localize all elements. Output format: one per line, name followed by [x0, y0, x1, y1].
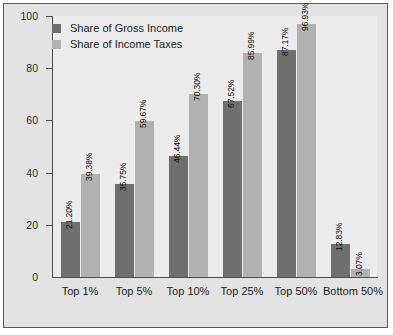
- bars-layer: 21.20%39.38%35.75%59.67%46.44%70.30%67.5…: [53, 16, 377, 277]
- y-axis-label: 60: [26, 115, 38, 126]
- y-axis-tick: [46, 16, 53, 17]
- y-axis-label: 0: [32, 272, 38, 283]
- bar[interactable]: [277, 50, 296, 278]
- bar-value-label: 67.52%: [226, 80, 236, 108]
- y-axis-tick: [46, 173, 53, 174]
- y-axis-label: 100: [20, 11, 38, 22]
- x-axis-category-label: Top 5%: [107, 285, 161, 297]
- y-axis-tick: [46, 120, 53, 121]
- bar-value-label: 59.67%: [138, 100, 148, 128]
- bar-value-label: 70.30%: [192, 72, 202, 100]
- x-axis-category-label: Top 50%: [269, 285, 323, 297]
- y-axis-tick: [46, 225, 53, 226]
- y-axis-label: 40: [26, 168, 38, 179]
- x-axis-line: [52, 277, 378, 278]
- bar[interactable]: [135, 121, 154, 277]
- bar-value-label: 35.75%: [118, 162, 128, 190]
- legend-swatch-icon: [52, 40, 61, 49]
- bar[interactable]: [81, 174, 100, 277]
- bar-value-label: 21.20%: [64, 200, 74, 228]
- chart-legend: Share of Gross IncomeShare of Income Tax…: [52, 22, 183, 54]
- x-axis-category-label: Bottom 50%: [323, 285, 377, 297]
- bar-value-label: 12.83%: [334, 222, 344, 250]
- bar[interactable]: [297, 24, 316, 277]
- bar-value-label: 46.44%: [172, 135, 182, 163]
- bar[interactable]: [115, 184, 134, 277]
- y-axis-label: 20: [26, 220, 38, 231]
- legend-item-label: Share of Income Taxes: [70, 39, 182, 50]
- x-axis-category-label: Top 25%: [215, 285, 269, 297]
- legend-item[interactable]: Share of Gross Income: [52, 22, 183, 35]
- chart-figure: 020406080100 21.20%39.38%35.75%59.67%46.…: [3, 3, 388, 328]
- bar-value-label: 87.17%: [280, 28, 290, 56]
- x-axis-category-label: Top 10%: [161, 285, 215, 297]
- legend-swatch-icon: [52, 24, 61, 33]
- legend-item-label: Share of Gross Income: [70, 23, 183, 34]
- x-axis-category-label: Top 1%: [53, 285, 107, 297]
- legend-item[interactable]: Share of Income Taxes: [52, 38, 183, 51]
- y-axis-tick: [46, 68, 53, 69]
- bar[interactable]: [243, 53, 262, 277]
- bar[interactable]: [61, 222, 80, 277]
- bar-value-label: 96.93%: [300, 3, 310, 31]
- bar[interactable]: [169, 156, 188, 277]
- y-axis-label: 80: [26, 63, 38, 74]
- bar[interactable]: [189, 94, 208, 277]
- bar-value-label: 3.07%: [354, 252, 364, 276]
- bar-value-label: 85.99%: [246, 31, 256, 59]
- bar-value-label: 39.38%: [84, 153, 94, 181]
- bar[interactable]: [223, 101, 242, 277]
